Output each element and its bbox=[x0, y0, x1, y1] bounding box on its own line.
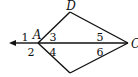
point-label-a: A bbox=[32, 28, 42, 42]
angle-label-2: 2 bbox=[28, 46, 35, 59]
geometry-diagram: D A C 1 2 3 4 5 6 bbox=[0, 0, 138, 77]
point-label-c: C bbox=[131, 37, 138, 51]
arrowhead-icon bbox=[9, 40, 16, 46]
angle-label-1: 1 bbox=[22, 31, 29, 44]
angle-label-5: 5 bbox=[97, 31, 104, 44]
angle-label-3: 3 bbox=[50, 31, 57, 44]
point-label-d: D bbox=[65, 0, 76, 13]
angle-label-6: 6 bbox=[97, 46, 104, 59]
angle-label-4: 4 bbox=[50, 46, 57, 59]
